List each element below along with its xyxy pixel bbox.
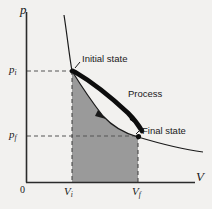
y-tick-label-pi: pi (9, 64, 17, 76)
initial-state-point (70, 68, 75, 73)
final-state-point (136, 134, 141, 139)
initial-state-annotation: Initial state (82, 54, 127, 64)
diagram-canvas (0, 0, 212, 209)
origin-label: 0 (20, 185, 25, 195)
x-tick-vf-sub: f (139, 190, 141, 199)
pv-diagram-figure: p V 0 pi pf Vi Vf Initial state Process … (0, 0, 212, 209)
y-axis-label: p (20, 3, 27, 16)
x-tick-label-vf: Vf (132, 186, 141, 198)
process-annotation: Process (128, 89, 162, 99)
final-state-leader (136, 130, 140, 134)
x-tick-label-vi: Vi (64, 186, 73, 198)
x-tick-vi-sub: i (71, 190, 73, 199)
x-tick-vi-base: V (64, 185, 71, 197)
y-tick-pi-sub: i (15, 68, 17, 77)
x-axis-label: V (196, 170, 204, 183)
initial-state-leader (75, 62, 80, 68)
x-tick-vf-base: V (132, 185, 139, 197)
final-state-annotation: Final state (142, 126, 186, 136)
y-tick-pf-sub: f (15, 133, 17, 142)
y-tick-label-pf: pf (9, 129, 17, 141)
